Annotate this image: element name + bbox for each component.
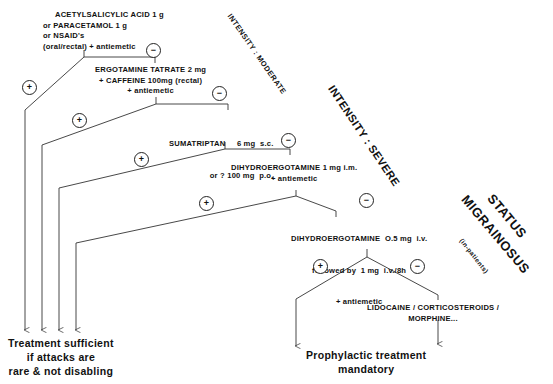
plus-sign-icon: +: [199, 196, 214, 211]
step-4-line-2: + antiemetic: [231, 174, 357, 185]
step-2-ergotamine: ERGOTAMINE TATRATE 2 mg + CAFFEINE 100mg…: [95, 65, 206, 97]
step-6-lidocaine-corticosteroids-morphine: LIDOCAINE / CORTICOSTEROIDS / MORPHINE..…: [367, 303, 499, 324]
outcome-treatment-sufficient: Treatment sufficient if attacks are rare…: [8, 336, 114, 378]
plus-sign-icon: +: [22, 80, 37, 95]
minus-sign-icon: −: [410, 259, 425, 274]
step-1-line-2: or PARACETAMOL 1 g: [43, 21, 164, 32]
minus-sign-icon: −: [281, 133, 296, 148]
minus-sign-icon: −: [146, 43, 161, 58]
step-2-line-1: ERGOTAMINE TATRATE 2 mg: [95, 65, 206, 76]
step-6-line-1: LIDOCAINE / CORTICOSTEROIDS /: [367, 303, 499, 314]
step-5-line-2: followed by 1 mg i.v./8h: [291, 266, 427, 277]
step-1-first-line-analgesics: ACETYLSALICYLIC ACID 1 g or PARACETAMOL …: [43, 10, 164, 52]
outcome-sufficient-line-2: if attacks are: [8, 350, 114, 364]
step-4-dihydroergotamine-im: DIHYDROERGOTAMINE 1 mg i.m. + antiemetic: [231, 163, 357, 184]
plus-sign-icon: +: [72, 113, 87, 128]
minus-sign-icon: −: [212, 86, 227, 101]
minus-sign-icon: −: [359, 193, 374, 208]
step-1-line-1: ACETYLSALICYLIC ACID 1 g: [43, 10, 164, 21]
outcome-prophylactic-mandatory: Prophylactic treatment mandatory: [306, 348, 426, 376]
step-6-line-2: MORPHINE...: [367, 314, 499, 325]
outcome-prophylactic-line-1: Prophylactic treatment: [306, 348, 426, 362]
step-2-line-2: + CAFFEINE 100mg (rectal): [95, 76, 206, 87]
plus-sign-icon: +: [134, 152, 149, 167]
outcome-sufficient-line-3: rare & not disabling: [8, 364, 114, 378]
plus-sign-icon: +: [313, 259, 328, 274]
step-4-line-1: DIHYDROERGOTAMINE 1 mg i.m.: [231, 163, 357, 174]
step-3-line-1: SUMATRIPTAN 6 mg s.c.: [169, 139, 274, 150]
step-2-line-3: + antiemetic: [95, 86, 206, 97]
step-5-line-1: DIHYDROERGOTAMINE O.5 mg i.v.: [291, 234, 427, 245]
step-1-line-3: or NSAID's: [43, 31, 164, 42]
step-3-sumatriptan: SUMATRIPTAN 6 mg s.c. or ? 100 mg p.o.: [169, 118, 274, 202]
outcome-sufficient-line-1: Treatment sufficient: [8, 336, 114, 350]
outcome-prophylactic-line-2: mandatory: [306, 362, 426, 376]
migraine-treatment-diagram: ACETYLSALICYLIC ACID 1 g or PARACETAMOL …: [0, 0, 553, 384]
